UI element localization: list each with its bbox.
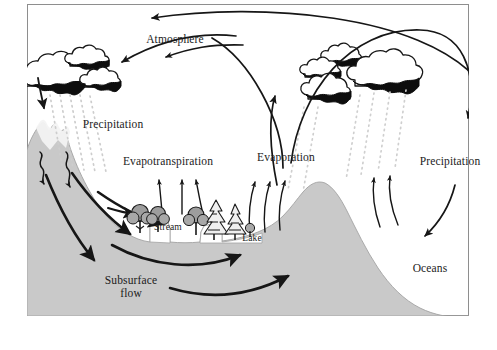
label-precipitation-right: Precipitation xyxy=(404,155,496,168)
cloud-group-left xyxy=(18,45,121,95)
label-oceans: Oceans xyxy=(400,262,460,275)
hydrologic-cycle-figure: Atmosphere Precipitation Evapotranspirat… xyxy=(0,0,497,350)
ocean-precipitation-arrow xyxy=(425,185,455,236)
evaporation-arrows-ocean xyxy=(373,176,398,227)
precipitation-streaks-right xyxy=(288,90,406,192)
cloud-group-right xyxy=(300,43,423,104)
label-evaporation: Evaporation xyxy=(243,151,329,164)
label-evapotranspiration: Evapotranspiration xyxy=(108,155,228,168)
label-atmosphere: Atmosphere xyxy=(130,33,220,46)
evaporation-arrows-lake xyxy=(249,181,285,232)
label-lake: Lake xyxy=(235,233,269,244)
label-subsurface-flow: Subsurface flow xyxy=(88,274,174,300)
water-cycle-drawing xyxy=(0,0,497,350)
label-precipitation-left: Precipitation xyxy=(67,118,159,131)
label-stream: Stream xyxy=(145,222,191,233)
label-subsurface-flow-line2: flow xyxy=(120,287,142,299)
label-subsurface-flow-line1: Subsurface xyxy=(105,274,158,286)
